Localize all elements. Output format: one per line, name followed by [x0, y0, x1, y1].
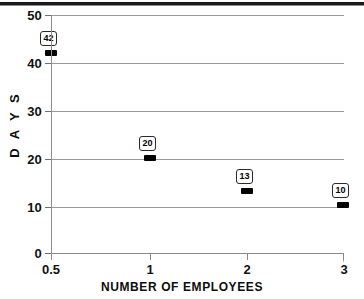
- top-border-rule-shadow: [0, 5, 364, 6]
- gridline-40: [51, 63, 344, 64]
- y-axis-line: [51, 15, 52, 254]
- y-tick-50: [45, 15, 51, 16]
- gridline-20: [51, 159, 344, 160]
- x-tick-2: [247, 253, 248, 260]
- x-tick-label-0: 0.5: [21, 263, 81, 277]
- data-label-0: 42: [40, 31, 57, 46]
- x-tick-label-3: 3: [314, 263, 364, 277]
- y-axis-title: D A Y S: [7, 75, 22, 175]
- chart-figure: 42 20 13 10 50 40 30 20 10 0 0.5 1 2 3: [0, 0, 364, 299]
- y-tick-label-10: 10: [0, 201, 42, 214]
- data-marker-2: [241, 188, 253, 194]
- data-marker-1: [144, 155, 156, 161]
- y-tick-label-40: 40: [0, 57, 42, 70]
- y-tick-label-50: 50: [0, 9, 42, 22]
- gridline-30: [51, 111, 344, 112]
- data-label-3: 10: [332, 183, 349, 198]
- data-marker-3: [337, 202, 349, 208]
- y-tick-10: [45, 207, 51, 208]
- x-tick-label-2: 2: [217, 263, 277, 277]
- x-tick-3: [343, 253, 344, 260]
- y-tick-40: [45, 63, 51, 64]
- y-tick-label-0: 0: [0, 247, 42, 260]
- gridline-10: [51, 207, 344, 208]
- data-label-2: 13: [236, 169, 253, 184]
- x-axis-line: [51, 253, 344, 254]
- y-tick-30: [45, 111, 51, 112]
- x-tick-0: [51, 253, 52, 260]
- plot-area: 42 20 13 10: [51, 15, 344, 253]
- y-tick-20: [45, 159, 51, 160]
- x-axis-title: NUMBER OF EMPLOYEES: [0, 280, 364, 294]
- gridline-50: [51, 15, 344, 16]
- data-label-1: 20: [139, 136, 156, 151]
- x-tick-label-1: 1: [120, 263, 180, 277]
- x-tick-1: [150, 253, 151, 260]
